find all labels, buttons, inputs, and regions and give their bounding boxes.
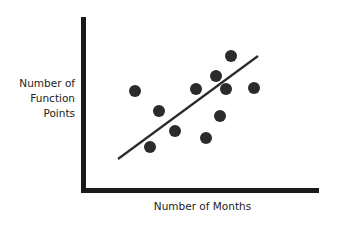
data-point xyxy=(144,141,156,153)
data-point xyxy=(129,85,141,97)
scatter-plot xyxy=(0,0,340,226)
data-point xyxy=(210,70,222,82)
data-point xyxy=(214,110,226,122)
data-point xyxy=(200,132,212,144)
data-point xyxy=(169,125,181,137)
data-point xyxy=(153,105,165,117)
data-point xyxy=(220,83,232,95)
data-point xyxy=(190,83,202,95)
data-point xyxy=(225,50,237,62)
x-axis xyxy=(81,188,319,193)
trend-line xyxy=(118,56,258,159)
y-axis xyxy=(81,17,86,193)
data-point xyxy=(248,82,260,94)
